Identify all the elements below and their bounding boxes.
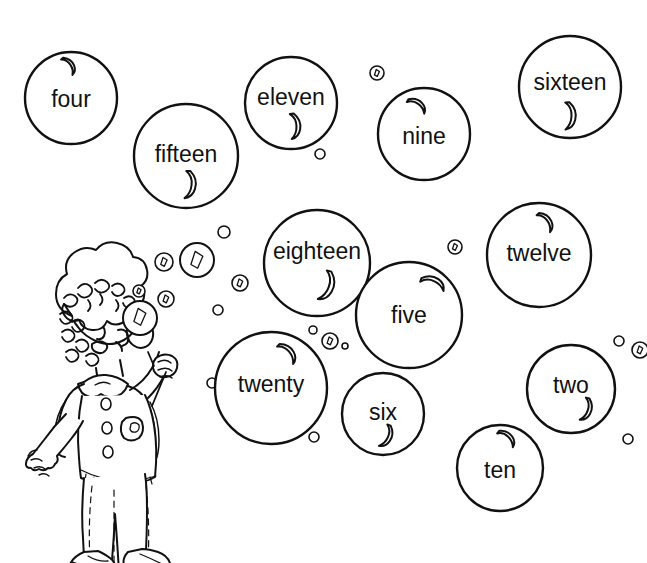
small-bubble (342, 343, 348, 349)
small-bubble (309, 432, 319, 442)
bubble-label: fifteen (155, 141, 218, 167)
word-bubble-fifteen[interactable]: fifteen (134, 104, 238, 208)
small-bubble (322, 333, 338, 349)
bubble-label: nine (402, 123, 445, 149)
small-bubble (448, 240, 462, 254)
word-bubble-twenty[interactable]: twenty (215, 332, 327, 444)
word-bubble-two[interactable]: two (527, 345, 615, 433)
wand-forming-bubble (123, 301, 157, 335)
small-bubble (133, 285, 145, 297)
bubble-label: twelve (506, 240, 571, 266)
shirt-body (78, 395, 156, 485)
small-bubble (309, 326, 317, 334)
word-bubble-eighteen[interactable]: eighteen (264, 210, 370, 316)
bubble-label: ten (484, 457, 516, 483)
wand-bubble-layer (123, 301, 157, 335)
bubble-label: two (553, 372, 589, 398)
small-bubble (155, 253, 173, 271)
coloring-page-canvas: fourfifteenelevenninesixteeneighteentwel… (0, 0, 647, 563)
bubble-label: twenty (238, 371, 305, 397)
small-bubble (180, 243, 214, 277)
bubble-label: eleven (257, 84, 325, 110)
word-bubble-sixteen[interactable]: sixteen (519, 36, 621, 138)
small-bubble (370, 66, 384, 80)
small-bubble (632, 342, 647, 358)
word-bubble-eleven[interactable]: eleven (245, 57, 337, 149)
small-bubble (315, 149, 325, 159)
small-bubble (232, 275, 248, 291)
bubble-label: four (51, 86, 91, 112)
word-bubble-four[interactable]: four (25, 52, 117, 144)
bubble-label: five (391, 302, 427, 328)
word-bubble-nine[interactable]: nine (378, 88, 470, 180)
bubble-label: sixteen (534, 69, 607, 95)
small-bubble (623, 434, 633, 444)
small-bubble (614, 336, 624, 346)
word-bubble-ten[interactable]: ten (457, 425, 543, 511)
small-bubble (213, 305, 223, 315)
bubble-scene: fourfifteenelevenninesixteeneighteentwel… (0, 0, 647, 563)
word-bubble-twelve[interactable]: twelve (487, 203, 591, 307)
bubble-label: eighteen (273, 238, 361, 264)
small-bubble (158, 291, 174, 307)
bubble-label: six (369, 399, 398, 425)
word-bubble-five[interactable]: five (356, 262, 462, 368)
small-bubble (218, 226, 230, 238)
word-bubble-six[interactable]: six (342, 373, 424, 455)
